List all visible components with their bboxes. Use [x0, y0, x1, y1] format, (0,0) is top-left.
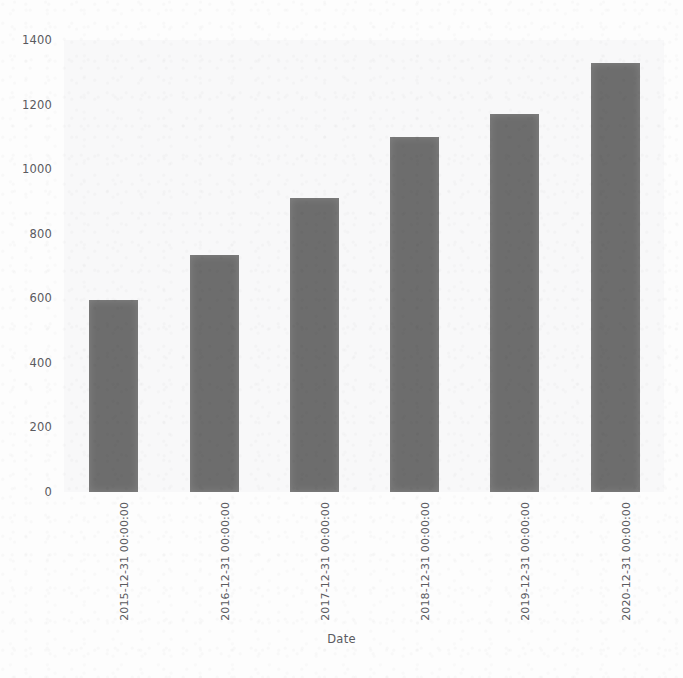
bar-chart-figure: 1400 1200 1000 800 600 400 200 0 2015-12… [0, 0, 683, 678]
plot-area [64, 40, 664, 492]
x-tick-label: 2015-12-31 00:00:00 [118, 502, 131, 621]
x-axis-label: Date [0, 632, 683, 646]
x-tick-label: 2016-12-31 00:00:00 [219, 502, 232, 621]
x-tick-label: 2018-12-31 00:00:00 [419, 502, 432, 621]
y-tick-label: 0 [44, 485, 52, 499]
x-tick-label: 2019-12-31 00:00:00 [519, 502, 532, 621]
x-tick-label: 2020-12-31 00:00:00 [620, 502, 633, 621]
y-tick-label: 600 [29, 291, 52, 305]
x-axis: 2015-12-31 00:00:00 2016-12-31 00:00:00 … [64, 492, 664, 632]
y-tick-label: 800 [29, 227, 52, 241]
bar [591, 63, 640, 492]
y-axis: 1400 1200 1000 800 600 400 200 0 [0, 0, 64, 532]
y-tick-label: 1400 [22, 33, 52, 47]
bar [390, 137, 439, 492]
y-tick-label: 1000 [22, 162, 52, 176]
y-tick-label: 1200 [22, 98, 52, 112]
bar [490, 114, 539, 492]
bar [290, 198, 339, 492]
y-tick-label: 200 [29, 420, 52, 434]
bar [89, 300, 138, 492]
x-tick-label: 2017-12-31 00:00:00 [319, 502, 332, 621]
y-tick-label: 400 [29, 356, 52, 370]
bar [190, 255, 239, 492]
